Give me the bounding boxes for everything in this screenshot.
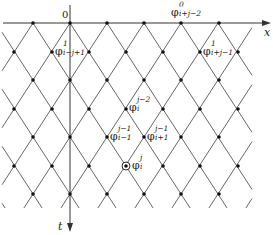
node-label-phi-0-i+j-2: φ0i+j−2 — [171, 3, 179, 19]
subscript: i — [137, 105, 139, 113]
grid-node — [142, 21, 146, 25]
subscript: i — [140, 163, 142, 171]
subscript: i+j−1 — [211, 49, 233, 57]
grid-node — [68, 21, 72, 25]
grid-node — [68, 135, 72, 139]
characteristic-line — [246, 199, 252, 208]
grid-node — [50, 164, 54, 168]
grid-node — [12, 50, 16, 54]
grid-node — [124, 107, 128, 111]
grid-node — [87, 107, 91, 111]
grid-node — [217, 21, 221, 25]
characteristic-line — [172, 85, 252, 208]
grid-node — [124, 50, 128, 54]
characteristic-line — [209, 142, 252, 208]
phi-symbol: φ — [110, 130, 118, 143]
grid-node — [198, 50, 202, 54]
characteristic-line — [2, 23, 33, 71]
grid-node — [179, 192, 183, 196]
grid-node — [87, 164, 91, 168]
phi-symbol: φ — [147, 130, 155, 143]
phi-symbol: φ — [132, 159, 140, 172]
grid-node — [50, 107, 54, 111]
grid-node — [105, 135, 109, 139]
phi-symbol: φ — [203, 45, 211, 58]
origin-label: 0 — [62, 10, 68, 20]
grid-node — [87, 50, 91, 54]
grid-node — [31, 192, 35, 196]
grid-node — [161, 50, 165, 54]
superscript: 1 — [63, 40, 68, 48]
superscript: 0 — [179, 1, 184, 9]
t-axis-label: t — [58, 221, 62, 232]
superscript: j−2 — [137, 96, 150, 104]
phi-symbol: φ — [129, 101, 137, 114]
grid-node — [31, 135, 35, 139]
grid-node — [179, 21, 183, 25]
target-node — [124, 164, 128, 168]
characteristic-line — [144, 23, 252, 189]
t-axis-arrow-icon — [67, 223, 73, 232]
grid-node — [31, 21, 35, 25]
characteristic-line — [2, 23, 70, 128]
lattice-svg — [0, 0, 273, 235]
characteristic-line — [2, 32, 116, 208]
node-label-phi-j-2-i: φj−2i — [129, 98, 137, 114]
phi-symbol: φ — [171, 6, 179, 19]
characteristic-line — [135, 28, 252, 208]
grid-node — [68, 192, 72, 196]
grid-node — [142, 78, 146, 82]
grid-node — [179, 78, 183, 82]
node-label-phi-1-i-j+1: φ1i−j+1 — [55, 42, 63, 58]
grid-node — [105, 192, 109, 196]
grid-node — [217, 192, 221, 196]
grid-node — [236, 50, 240, 54]
node-label-phi-j-1-i+1: φj−1i+1 — [147, 127, 155, 143]
node-label-phi-j-1-i-1: φj−1i−1 — [110, 127, 118, 143]
grid-node — [236, 164, 240, 168]
superscript: j−1 — [118, 125, 131, 133]
subscript: i−j+1 — [63, 49, 85, 57]
node-label-phi-1-i+j-1: φ1i+j−1 — [203, 42, 211, 58]
characteristic-line — [181, 23, 252, 132]
grid-node — [236, 107, 240, 111]
grid-node — [68, 78, 72, 82]
grid-node — [217, 78, 221, 82]
grid-node — [198, 107, 202, 111]
phi-symbol: φ — [55, 45, 63, 58]
grid-node — [217, 135, 221, 139]
x-axis-label: x — [264, 27, 270, 38]
grid-node — [198, 164, 202, 168]
characteristic-line — [2, 203, 5, 208]
grid-node — [179, 135, 183, 139]
superscript: j — [140, 154, 142, 162]
grid-node — [50, 50, 54, 54]
characteristic-line — [2, 89, 79, 208]
grid-node — [12, 164, 16, 168]
subscript: i−1 — [118, 134, 131, 142]
subscript: i+j−2 — [179, 10, 201, 18]
node-label-phi-j-i: φji — [132, 156, 140, 172]
grid-node — [105, 78, 109, 82]
characteristic-lattice-diagram: 0 x t φ0i+j−2φ1i−j+1φ1i+j−1φj−2iφj−1i−1φ… — [0, 0, 273, 235]
grid-node — [161, 107, 165, 111]
grid-node — [161, 164, 165, 168]
superscript: j−1 — [155, 125, 168, 133]
grid-node — [12, 107, 16, 111]
grid-node — [142, 192, 146, 196]
grid-node — [31, 78, 35, 82]
superscript: 1 — [211, 40, 216, 48]
subscript: i+1 — [155, 134, 168, 142]
grid-node — [142, 135, 146, 139]
characteristic-line — [2, 146, 42, 208]
grid-node — [105, 21, 109, 25]
